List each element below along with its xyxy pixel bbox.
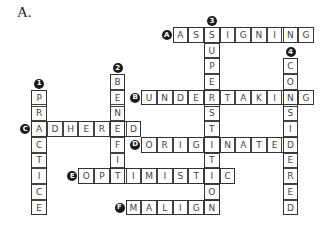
crossword-cell[interactable]: I <box>283 121 299 137</box>
crossword-cell[interactable]: C <box>31 137 47 153</box>
crossword-cell[interactable]: S <box>283 106 299 122</box>
crossword-cell[interactable]: P <box>94 168 110 184</box>
crossword-cell[interactable]: O <box>204 184 220 200</box>
crossword-cell[interactable]: E <box>204 74 220 90</box>
crossword-cell[interactable]: E <box>110 121 126 137</box>
crossword-cell[interactable]: O <box>283 74 299 90</box>
crossword-cell[interactable]: C <box>283 58 299 74</box>
crossword-cell[interactable]: U <box>204 43 220 59</box>
clue-number-badge: C <box>20 124 30 134</box>
crossword-cell[interactable]: I <box>204 168 220 184</box>
crossword-cell[interactable]: A <box>141 200 157 216</box>
crossword-cell[interactable]: I <box>110 153 126 169</box>
crossword-cell[interactable]: I <box>157 168 173 184</box>
crossword-cell[interactable]: N <box>220 137 236 153</box>
crossword-cell[interactable]: E <box>267 137 283 153</box>
crossword-cell[interactable]: T <box>204 153 220 169</box>
crossword-cell[interactable]: C <box>31 184 47 200</box>
crossword-cell[interactable]: E <box>188 90 204 106</box>
clue-number-badge: D <box>130 140 140 150</box>
crossword-cell[interactable]: E <box>78 121 94 137</box>
crossword-cell[interactable]: D <box>283 200 299 216</box>
crossword-cell[interactable]: A <box>235 90 251 106</box>
crossword-cell[interactable]: E <box>283 184 299 200</box>
crossword-cell[interactable]: R <box>157 137 173 153</box>
crossword-cell[interactable]: I <box>267 27 283 43</box>
crossword-cell[interactable]: N <box>157 90 173 106</box>
crossword-cell[interactable]: T <box>204 121 220 137</box>
crossword-cell[interactable]: P <box>204 58 220 74</box>
crossword-cell[interactable]: I <box>204 137 220 153</box>
crossword-cell[interactable]: E <box>31 200 47 216</box>
crossword-cell[interactable]: E <box>110 90 126 106</box>
crossword-grid: ASSIGNINGAUNDERTAKINGBADHEREDCORIGINATED… <box>0 0 326 234</box>
crossword-cell[interactable]: N <box>204 200 220 216</box>
crossword-cell[interactable]: I <box>31 168 47 184</box>
crossword-cell[interactable]: N <box>283 90 299 106</box>
crossword-cell[interactable]: N <box>251 27 267 43</box>
crossword-cell[interactable]: D <box>126 121 142 137</box>
crossword-cell[interactable]: F <box>110 137 126 153</box>
crossword-cell[interactable]: I <box>267 90 283 106</box>
crossword-cell[interactable]: K <box>251 90 267 106</box>
crossword-cell[interactable]: G <box>298 27 314 43</box>
crossword-cell[interactable]: N <box>110 106 126 122</box>
crossword-cell[interactable]: G <box>188 137 204 153</box>
crossword-cell[interactable]: S <box>204 27 220 43</box>
clue-number-badge: 3 <box>207 16 217 26</box>
crossword-cell[interactable]: D <box>283 137 299 153</box>
crossword-cell[interactable]: R <box>283 168 299 184</box>
crossword-cell[interactable]: D <box>47 121 63 137</box>
crossword-cell[interactable]: H <box>63 121 79 137</box>
crossword-cell[interactable]: R <box>94 121 110 137</box>
crossword-cell[interactable]: P <box>31 90 47 106</box>
crossword-cell[interactable]: R <box>31 106 47 122</box>
crossword-cell[interactable]: A <box>235 137 251 153</box>
crossword-cell[interactable]: A <box>31 121 47 137</box>
crossword-cell[interactable]: L <box>157 200 173 216</box>
crossword-cell[interactable]: U <box>141 90 157 106</box>
crossword-cell[interactable]: N <box>283 27 299 43</box>
clue-number-badge: 4 <box>286 47 296 57</box>
crossword-cell[interactable]: I <box>126 168 142 184</box>
clue-number-badge: B <box>130 93 140 103</box>
crossword-cell[interactable]: S <box>204 106 220 122</box>
crossword-cell[interactable]: B <box>110 74 126 90</box>
crossword-cell[interactable]: T <box>110 168 126 184</box>
crossword-cell[interactable]: S <box>188 27 204 43</box>
crossword-cell[interactable]: D <box>173 90 189 106</box>
crossword-cell[interactable]: I <box>173 137 189 153</box>
crossword-cell[interactable]: A <box>173 27 189 43</box>
crossword-cell[interactable]: E <box>283 153 299 169</box>
crossword-cell[interactable]: G <box>188 200 204 216</box>
crossword-cell[interactable]: G <box>235 27 251 43</box>
clue-number-badge: F <box>115 203 125 213</box>
crossword-cell[interactable]: T <box>251 137 267 153</box>
crossword-cell[interactable]: M <box>126 200 142 216</box>
crossword-cell[interactable]: M <box>141 168 157 184</box>
clue-number-badge: E <box>67 171 77 181</box>
crossword-cell[interactable]: T <box>31 153 47 169</box>
crossword-cell[interactable]: G <box>298 90 314 106</box>
crossword-cell[interactable]: I <box>220 27 236 43</box>
clue-number-badge: 2 <box>113 63 123 73</box>
crossword-cell[interactable]: O <box>78 168 94 184</box>
crossword-cell[interactable]: R <box>204 90 220 106</box>
clue-number-badge: 1 <box>34 79 44 89</box>
crossword-cell[interactable]: I <box>173 200 189 216</box>
clue-number-badge: A <box>162 30 172 40</box>
crossword-cell[interactable]: O <box>141 137 157 153</box>
crossword-cell[interactable]: S <box>173 168 189 184</box>
crossword-cell[interactable]: T <box>220 90 236 106</box>
crossword-cell[interactable]: T <box>188 168 204 184</box>
crossword-cell[interactable]: C <box>220 168 236 184</box>
